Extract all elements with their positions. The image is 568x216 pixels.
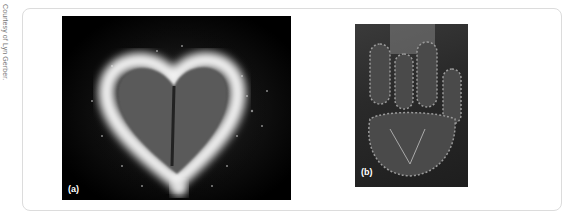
figure-a-image: (a) xyxy=(62,16,291,200)
heart-leaf-graphic xyxy=(62,16,291,200)
figure-b-label: (b) xyxy=(361,167,373,177)
hand-graphic xyxy=(355,24,468,187)
figure-a-label: (a) xyxy=(68,184,79,194)
figure-b-image: (b) xyxy=(355,24,468,187)
photo-credit: Courtesy of Lyn Gerber. xyxy=(2,4,9,80)
